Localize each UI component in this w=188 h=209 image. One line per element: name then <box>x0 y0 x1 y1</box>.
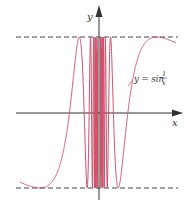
equation-denominator: x <box>162 79 166 87</box>
equation-prefix: y = sin <box>133 74 164 84</box>
curve-equation-label: y = sin 1 x <box>133 70 167 87</box>
x-axis-label: x <box>172 117 178 128</box>
y-axis-label: y <box>86 11 93 22</box>
x-axis-arrow-icon <box>172 110 183 117</box>
sin-1-over-x-plot: x y y = sin 1 x <box>0 0 188 209</box>
y-axis-arrow-icon <box>96 5 103 17</box>
equation-numerator: 1 <box>162 70 166 78</box>
